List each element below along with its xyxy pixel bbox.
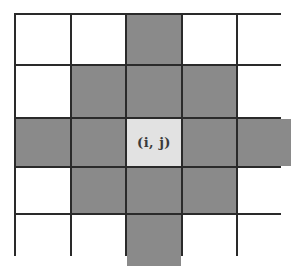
neighbor-cell-r1-c3 — [183, 66, 236, 117]
grid-cell-r0-c1 — [72, 15, 125, 64]
grid-cell-r4-c0 — [16, 215, 70, 266]
grid-cell-r4-c4 — [238, 215, 291, 266]
grid-cell-r0-c4 — [238, 15, 291, 64]
neighbor-cell-r1-c1 — [72, 66, 125, 117]
neighbor-cell-r1-c2 — [127, 66, 181, 117]
grid-cell-r1-c0 — [16, 66, 70, 117]
neighbor-cell-r3-c1 — [72, 168, 125, 213]
center-cell: (i, j) — [127, 119, 181, 166]
neighborhood-grid: (i, j) — [14, 13, 281, 256]
grid-cell-r0-c0 — [16, 15, 70, 64]
neighbor-cell-r3-c3 — [183, 168, 236, 213]
neighbor-cell-r2-c4 — [238, 119, 291, 166]
neighbor-cell-r2-c3 — [183, 119, 236, 166]
grid-cell-r4-c1 — [72, 215, 125, 266]
neighbor-cell-r0-c2 — [127, 15, 181, 64]
grid-cell-r1-c4 — [238, 66, 291, 117]
grid-cell-r3-c4 — [238, 168, 291, 213]
neighbor-cell-r4-c2 — [127, 215, 181, 266]
center-cell-label: (i, j) — [137, 135, 171, 150]
grid-cell-r0-c3 — [183, 15, 236, 64]
neighbor-cell-r2-c1 — [72, 119, 125, 166]
neighbor-cell-r2-c0 — [16, 119, 70, 166]
grid-cell-r3-c0 — [16, 168, 70, 213]
neighbor-cell-r3-c2 — [127, 168, 181, 213]
grid-cell-r4-c3 — [183, 215, 236, 266]
